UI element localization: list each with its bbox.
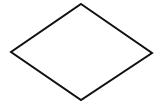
diagram-canvas bbox=[0, 0, 163, 112]
decision-diamond-shape bbox=[11, 4, 152, 100]
